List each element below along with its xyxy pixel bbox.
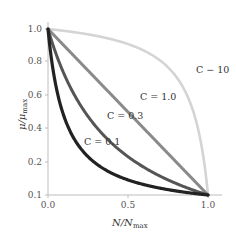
y-ticks: 0.10.20.40.60.81.0 <box>28 24 48 200</box>
x-tick-label: 1.0 <box>201 200 216 210</box>
y-tick-label: 0.6 <box>28 90 43 100</box>
y-tick-label: 1.0 <box>28 24 43 34</box>
x-tick-label: 0.0 <box>41 200 56 210</box>
y-tick-label: 0.8 <box>28 56 43 66</box>
x-tick-label: 0.5 <box>121 200 136 210</box>
x-axis-label: N/Nmax <box>111 217 148 230</box>
y-tick-label: 0.4 <box>28 123 43 133</box>
curve-label-c03: C = 0.3 <box>107 110 143 121</box>
curve-label-c10: C − 10 <box>196 64 229 75</box>
x-ticks: 0.00.51.0 <box>41 195 216 210</box>
curve-label-c1: C = 1.0 <box>140 91 176 102</box>
y-tick-label: 0.1 <box>28 190 42 200</box>
y-tick-label: 0.2 <box>28 157 42 167</box>
chart: 0.10.20.40.60.81.0 0.00.51.0 C − 10 C = … <box>0 0 236 241</box>
curve-label-c01: C = 0.1 <box>84 136 120 147</box>
